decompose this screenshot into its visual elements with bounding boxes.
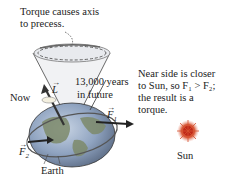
torque-caption-line1: Torque causes axis xyxy=(20,6,99,18)
now-label: Now xyxy=(10,92,30,104)
L-vector-label: → L xyxy=(52,84,58,96)
earth-label: Earth xyxy=(41,165,64,177)
near-side-caption-line1: Near side is closer xyxy=(138,68,215,80)
F1-label: → F1 xyxy=(107,109,117,125)
precession-diagram: Torque causes axis to precess. Now → L 1… xyxy=(0,0,228,181)
future-caption-line2: in future xyxy=(77,89,113,101)
F2-label: → F2 xyxy=(19,146,29,162)
sun-label: Sun xyxy=(177,150,193,162)
near-side-caption-line3: the result is a xyxy=(138,92,194,104)
future-caption-line1: 13,000 years xyxy=(75,76,129,88)
near-side-caption-line4: torque. xyxy=(138,104,167,116)
sun-icon xyxy=(177,120,199,142)
near-side-caption-line2: to Sun, so F₁ > F₂; xyxy=(138,80,215,92)
torque-caption-line2: to precess. xyxy=(20,18,64,30)
